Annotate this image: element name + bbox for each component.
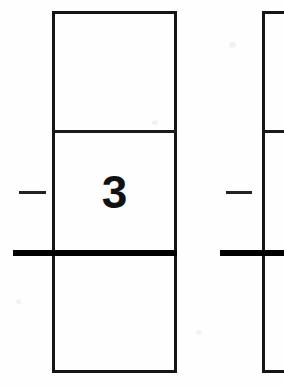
- worksheet-page: 3: [0, 0, 284, 386]
- cell-top-left[interactable]: [55, 14, 174, 131]
- cell-bottom-right-value: [265, 259, 284, 370]
- cell-bottom-left-value: [55, 259, 174, 370]
- cell-middle-right-value: [265, 134, 284, 250]
- cell-divider-upper-left: [52, 130, 177, 133]
- cell-top-right[interactable]: [265, 14, 284, 131]
- scan-artifact: [196, 330, 202, 335]
- cell-middle-left-value: 3: [55, 134, 174, 250]
- cell-middle-left[interactable]: 3: [55, 134, 174, 250]
- cell-top-left-value: [55, 14, 174, 131]
- scan-artifact: [16, 299, 21, 304]
- cell-bottom-right[interactable]: [265, 259, 284, 370]
- answer-rule-left: [13, 250, 177, 256]
- minus-operator-icon-right: [226, 191, 252, 194]
- cell-bottom-left[interactable]: [55, 259, 174, 370]
- cell-divider-upper-right: [262, 130, 284, 133]
- cell-middle-right[interactable]: [265, 134, 284, 250]
- scan-artifact: [229, 42, 236, 48]
- minus-operator-icon-left: [19, 191, 46, 194]
- answer-rule-right: [220, 250, 284, 256]
- cell-top-right-value: [265, 14, 284, 131]
